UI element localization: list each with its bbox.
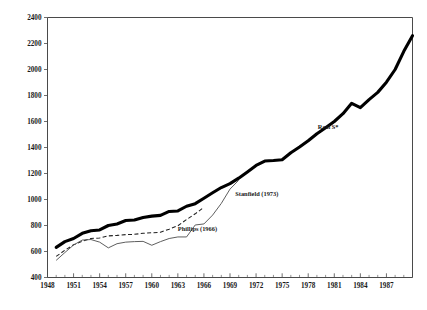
x-tick-label: 1963 <box>171 282 186 290</box>
x-tick-label: 1981 <box>327 282 342 290</box>
x-tick-label: 1969 <box>223 282 238 290</box>
y-tick-label: 800 <box>31 222 42 230</box>
x-tick-label: 1948 <box>40 282 55 290</box>
x-tick-label: 1987 <box>379 282 394 290</box>
x-tick-label: 1984 <box>353 282 368 290</box>
y-tick-label: 1600 <box>27 118 42 126</box>
y-tick-label: 1400 <box>27 144 42 152</box>
y-tick-label: 1200 <box>27 170 42 178</box>
y-tick-label: 1000 <box>27 196 42 204</box>
x-tick-label: 1957 <box>119 282 134 290</box>
chart-background <box>0 0 427 310</box>
line-chart: 4006008001000120014001600180020002200240… <box>0 0 427 310</box>
x-tick-label: 1951 <box>66 282 81 290</box>
y-tick-label: 2400 <box>27 14 42 22</box>
x-tick-label: 1954 <box>92 282 107 290</box>
x-tick-label: 1978 <box>301 282 316 290</box>
series-label-stanfield-1973: Stanfield (1973) <box>235 190 278 198</box>
x-tick-label: 1960 <box>145 282 160 290</box>
x-tick-label: 1972 <box>249 282 264 290</box>
y-tick-label: 600 <box>31 248 42 256</box>
y-tick-label: 2200 <box>27 40 42 48</box>
series-label-phillips-1966: Phillips (1966) <box>178 225 217 233</box>
x-tick-label: 1975 <box>275 282 290 290</box>
chart-figure: 4006008001000120014001600180020002200240… <box>0 0 427 310</box>
y-tick-label: 2000 <box>27 66 42 74</box>
series-label-real-s: Real S* <box>318 123 339 130</box>
x-tick-label: 1966 <box>197 282 212 290</box>
y-tick-label: 1800 <box>27 92 42 100</box>
